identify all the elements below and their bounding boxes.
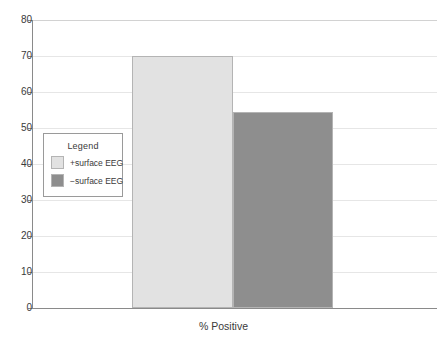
y-tick-label-80: 80 — [2, 15, 32, 25]
y-axis-line — [32, 20, 33, 309]
bar-plus-surface-eeg — [132, 56, 233, 308]
y-tick-label-50: 50 — [2, 123, 32, 133]
x-axis-line — [32, 308, 437, 309]
legend-swatch-icon-plus-surface-eeg — [51, 156, 64, 169]
y-tick-label-0: 0 — [2, 303, 32, 313]
y-tick-label-30: 30 — [2, 195, 32, 205]
legend-item-plus-surface-eeg: +surface EEG — [44, 156, 122, 169]
legend: Legend +surface EEG −surface EEG — [43, 133, 123, 197]
gridline-60 — [32, 92, 437, 93]
gridline-70 — [32, 56, 437, 57]
y-tick-label-70: 70 — [2, 51, 32, 61]
bar-chart: 80 70 60 50 40 30 20 10 0 Legend +surfac… — [0, 0, 447, 347]
y-tick-label-60: 60 — [2, 87, 32, 97]
legend-swatch-icon-minus-surface-eeg — [51, 174, 64, 187]
y-tick-label-10: 10 — [2, 267, 32, 277]
x-axis-label: % Positive — [0, 320, 447, 332]
legend-title: Legend — [44, 141, 122, 151]
legend-label-plus-surface-eeg: +surface EEG — [70, 158, 123, 168]
legend-item-minus-surface-eeg: −surface EEG — [44, 174, 122, 187]
legend-label-minus-surface-eeg: −surface EEG — [70, 176, 123, 186]
bar-minus-surface-eeg — [233, 112, 333, 308]
y-tick-label-40: 40 — [2, 159, 32, 169]
gridline-80 — [32, 20, 437, 21]
y-tick-label-20: 20 — [2, 231, 32, 241]
